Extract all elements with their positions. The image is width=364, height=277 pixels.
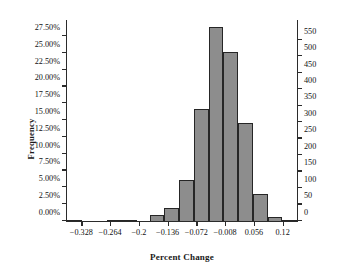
y-axis-left-label: 10.00% [35,141,60,149]
y-axis-right-label: 500 [304,44,316,52]
y-axis-left-tick [62,203,67,204]
plot-area: 0.00%2.50%5.00%7.50%10.00%12.50%15.00%17… [66,20,298,222]
y-axis-left-tick [62,220,67,221]
y-axis-left-tick [62,153,67,154]
histogram-bar [238,123,253,221]
bar-series [67,20,297,221]
y-axis-right-tick [297,187,302,188]
histogram-bar [164,208,179,221]
y-axis-left-tick [62,186,67,187]
y-axis-left-tick [62,102,67,103]
y-axis-left-tick [62,52,67,53]
y-axis-right-tick [297,154,302,155]
y-axis-left-label: 12.50% [35,125,60,133]
y-axis-left-label: 0.00% [39,209,60,217]
x-axis-label: −0.136 [156,229,179,237]
y-axis-right-tick [297,88,302,89]
y-axis-right-label: 550 [304,27,316,35]
histogram-chart: Frequency 0.00%2.50%5.00%7.50%10.00%12.5… [0,0,364,277]
x-axis-label: 0.056 [245,229,263,237]
y-axis-right-tick [297,170,302,171]
x-axis-label: −0.072 [185,229,208,237]
x-axis-label: 0.12 [275,229,289,237]
y-axis-left-label: 7.50% [39,158,60,166]
histogram-bar [179,180,194,221]
y-axis-left-tick [62,136,67,137]
y-axis-right-label: 50 [304,192,312,200]
histogram-bar [122,220,137,221]
histogram-bar [150,215,165,221]
y-axis-left-label: 22.50% [35,57,60,65]
x-axis-tick [283,221,284,226]
x-axis-tick [225,221,226,226]
y-axis-right-label: 450 [304,60,316,68]
y-axis-right-tick [297,72,302,73]
y-axis-left-tick [62,119,67,120]
y-axis-left-tick [62,169,67,170]
histogram-bar [253,194,268,221]
y-axis-left-label: 17.50% [35,91,60,99]
x-axis-tick [110,221,111,226]
y-axis-left-tick [62,85,67,86]
y-axis-right-tick [297,121,302,122]
histogram-bar [194,109,209,221]
histogram-bar [209,27,224,221]
x-axis-tick [254,221,255,226]
y-axis-right-label: 0 [304,209,308,217]
histogram-bar [268,217,283,221]
y-axis-right-label: 400 [304,77,316,85]
y-axis-right-tick [297,220,302,221]
y-axis-left-label: 2.50% [39,192,60,200]
histogram-bar [67,220,82,221]
y-axis-left-label: 20.00% [35,74,60,82]
x-axis-tick [81,221,82,226]
histogram-bar [223,52,238,221]
y-axis-right-label: 100 [304,176,316,184]
y-axis-right-tick [297,203,302,204]
y-axis-left-label: 15.00% [35,108,60,116]
y-axis-right-tick [297,137,302,138]
y-axis-right-tick [297,55,302,56]
x-axis-label: −0.2 [131,229,146,237]
y-axis-left-label: 25.00% [35,41,60,49]
x-axis-tick [196,221,197,226]
x-axis-label: −0.008 [214,229,237,237]
y-axis-right-label: 300 [304,110,316,118]
y-axis-left-label: 5.00% [39,175,60,183]
y-axis-left-tick [62,69,67,70]
y-axis-left-label: 27.50% [35,24,60,32]
y-axis-right-label: 150 [304,159,316,167]
x-axis-tick [168,221,169,226]
y-axis-right-label: 200 [304,143,316,151]
y-axis-right-tick [297,105,302,106]
y-axis-right-label: 350 [304,93,316,101]
histogram-bar [282,220,297,221]
x-axis-tick [139,221,140,226]
y-axis-right-tick [297,39,302,40]
x-axis-label: −0.328 [70,229,93,237]
y-axis-right-label: 250 [304,126,316,134]
x-axis-label: −0.264 [99,229,122,237]
y-axis-left-tick [62,35,67,36]
x-axis-title: Percent Change [66,252,298,262]
